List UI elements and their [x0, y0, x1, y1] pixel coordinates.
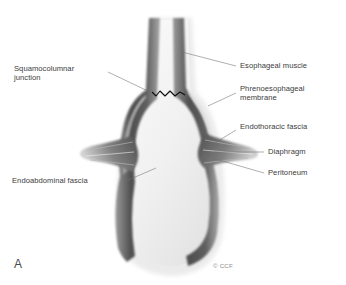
label-squamocolumnar-junction: Squamocolumnar junction	[14, 64, 74, 83]
anatomical-figure: Squamocolumnar junction Endoabdominal fa…	[0, 0, 346, 285]
panel-letter: A	[14, 258, 22, 270]
label-endoabdominal-fascia: Endoabdominal fascia	[12, 176, 88, 185]
label-endothoracic-fascia: Endothoracic fascia	[240, 122, 307, 131]
label-phrenoesophageal-membrane: Phrenoesophageal membrane	[240, 84, 305, 103]
esophagogastric-junction-illustration	[0, 0, 346, 285]
copyright-watermark: © CCF	[213, 262, 233, 269]
label-diaphragm: Diaphragm	[268, 147, 306, 156]
label-peritoneum: Peritoneum	[268, 168, 307, 177]
label-esophageal-muscle: Esophageal muscle	[240, 61, 307, 70]
